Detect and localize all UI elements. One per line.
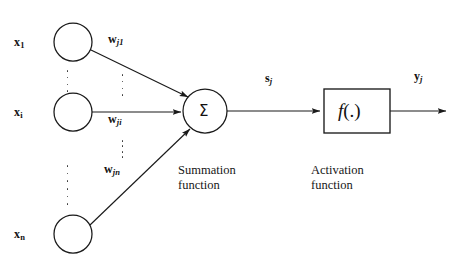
weight-label-ji: wji	[108, 113, 122, 127]
weight-label-j1: wj1	[108, 33, 123, 47]
input-node-1	[54, 23, 92, 61]
input-label-i: xi	[14, 106, 23, 119]
diagram-vector-layer	[0, 0, 461, 258]
summation-caption-line-2: function	[178, 178, 236, 193]
input-node-i	[54, 93, 92, 131]
activation-caption: Activation function	[311, 163, 364, 193]
activation-output-label: yj	[414, 70, 422, 84]
input-node-n	[54, 215, 92, 253]
ellipsis-weights-upper	[121, 74, 124, 96]
connection-line-n	[90, 129, 190, 225]
sigma-icon: Σ	[199, 104, 208, 119]
summation-output-label: sj	[265, 72, 272, 86]
input-label-n: xn	[14, 228, 25, 241]
activation-function-label: f(.)	[338, 101, 361, 120]
summation-caption-line-1: Summation	[178, 163, 236, 178]
weight-label-jn: wjn	[104, 163, 120, 177]
ellipsis-inputs-upper	[66, 70, 69, 92]
connection-line-1	[91, 50, 188, 97]
neuron-diagram-figure: x1 xi xn wj1 wji wjn Σ sj f(.) yj Summat…	[0, 0, 461, 258]
ellipsis-weights-lower	[121, 140, 124, 158]
ellipsis-inputs-lower	[66, 165, 69, 205]
activation-caption-line-2: function	[311, 178, 364, 193]
summation-caption: Summation function	[178, 163, 236, 193]
activation-caption-line-1: Activation	[311, 163, 364, 178]
input-label-1: x1	[14, 36, 24, 49]
